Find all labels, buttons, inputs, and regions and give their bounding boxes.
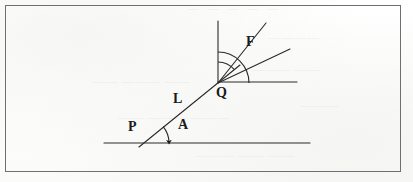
figure-page: — — — — — —— ——— —— ———— ——— —— —— ——— —… [0, 0, 413, 182]
segment-PQ [139, 65, 240, 147]
angle-label-A: A [178, 118, 188, 132]
angle-A-arc [163, 127, 169, 143]
angle-label-F: F [246, 35, 255, 49]
segment-label-L: L [173, 92, 182, 106]
point-label-P: P [128, 120, 137, 134]
angle-F-outer-arc [218, 52, 249, 83]
geometry-diagram [0, 0, 413, 182]
point-label-Q: Q [216, 86, 227, 100]
